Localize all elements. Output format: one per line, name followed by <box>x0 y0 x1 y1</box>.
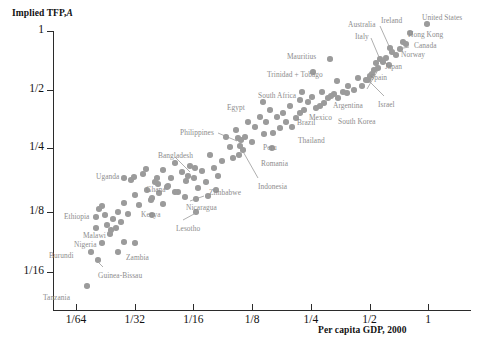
data-point <box>261 131 267 137</box>
data-point-tanzania <box>84 283 90 289</box>
data-point-egypt <box>260 99 266 105</box>
data-point <box>93 225 99 231</box>
point-label: Bangladesh <box>158 151 193 160</box>
data-point <box>172 189 178 195</box>
data-point <box>102 212 108 218</box>
data-point <box>389 49 395 55</box>
label-leader-line <box>99 263 103 267</box>
data-point <box>203 179 209 185</box>
data-point <box>280 110 286 116</box>
data-point <box>287 103 293 109</box>
data-point <box>345 83 351 89</box>
point-label: Hong Kong <box>408 30 443 39</box>
data-point <box>185 173 191 179</box>
data-point <box>305 99 311 105</box>
point-label: Romania <box>261 159 288 168</box>
data-point-uganda <box>121 175 127 181</box>
point-label: Nigeria <box>74 240 97 249</box>
point-label: Zambia <box>126 253 149 262</box>
data-point <box>96 206 102 212</box>
point-label: Ireland <box>381 16 402 25</box>
data-point-guinea-bissau <box>95 257 101 263</box>
data-point <box>223 134 229 140</box>
data-point <box>211 165 217 171</box>
data-point <box>238 137 244 143</box>
data-point <box>104 222 110 228</box>
point-label: Nicaragua <box>186 203 217 212</box>
point-label: Ethiopia <box>64 212 89 221</box>
data-point <box>115 249 121 255</box>
data-point <box>371 67 377 73</box>
data-point <box>131 174 137 180</box>
data-point <box>136 202 142 208</box>
data-point <box>115 209 121 215</box>
data-point <box>160 201 166 207</box>
data-point <box>107 231 113 237</box>
point-label: Peru <box>263 143 277 152</box>
data-point <box>321 100 327 106</box>
point-label: Israel <box>378 100 395 109</box>
data-point <box>283 119 289 125</box>
label-leader-line <box>371 38 379 57</box>
data-point <box>249 139 255 145</box>
point-label: Lesotho <box>176 224 200 233</box>
point-label: Uganda <box>96 172 119 181</box>
point-label: Guinea-Bissau <box>98 271 142 280</box>
data-point <box>245 119 251 125</box>
point-label: Kenya <box>141 210 161 219</box>
data-point <box>172 160 178 166</box>
data-point <box>257 114 263 120</box>
data-point <box>187 163 193 169</box>
data-point-peru <box>270 130 276 136</box>
data-point <box>148 197 154 203</box>
data-point-burundi <box>88 249 94 255</box>
data-point <box>319 89 325 95</box>
label-leader-line <box>380 26 389 46</box>
data-point-bangladesh <box>192 165 198 171</box>
data-point-nigeria <box>99 240 105 246</box>
data-point <box>373 60 379 66</box>
point-label: Japan <box>385 62 402 71</box>
data-point <box>277 125 283 131</box>
data-point <box>113 225 119 231</box>
data-point <box>219 158 225 164</box>
data-point <box>165 183 171 189</box>
point-label: Norway <box>401 50 425 59</box>
point-label: Ghana <box>146 185 166 194</box>
data-point <box>267 107 273 113</box>
data-point <box>121 200 127 206</box>
data-point <box>132 192 138 198</box>
data-point <box>191 175 197 181</box>
data-point <box>252 124 258 130</box>
data-point <box>363 77 369 83</box>
data-point <box>168 175 174 181</box>
data-point <box>340 89 346 95</box>
point-label: United States <box>422 13 462 22</box>
data-point <box>179 169 185 175</box>
data-point <box>230 155 236 161</box>
point-label: Spain <box>370 73 387 82</box>
data-point <box>355 75 361 81</box>
data-point <box>263 119 269 125</box>
data-point <box>154 175 160 181</box>
point-label: Zimbabwe <box>209 188 241 197</box>
data-point-mauritius <box>327 56 333 62</box>
scatter-chart: Implied TFP,A Per capita GDP, 2000 11/21… <box>0 0 478 343</box>
data-point <box>199 168 205 174</box>
point-label: Burundi <box>49 251 74 260</box>
data-point <box>301 107 307 113</box>
label-leader-line <box>183 214 194 220</box>
data-point-united-states <box>424 21 430 27</box>
data-point <box>195 185 201 191</box>
point-label: South Korea <box>338 117 376 126</box>
point-label: Indonesia <box>258 182 287 191</box>
data-point <box>359 83 365 89</box>
data-point <box>313 105 319 111</box>
point-label: South Africa <box>258 91 296 100</box>
data-point-south-africa <box>299 89 305 95</box>
point-label: Egypt <box>227 103 245 112</box>
data-point <box>140 171 146 177</box>
data-point <box>236 152 242 158</box>
label-leader-line <box>370 82 384 96</box>
data-point <box>351 87 357 93</box>
